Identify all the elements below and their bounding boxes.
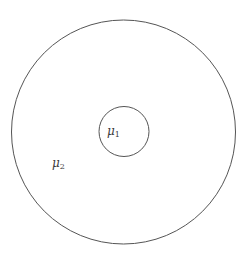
inner-region-label: μ1 xyxy=(107,125,120,139)
outer-label-subscript: 2 xyxy=(60,162,65,171)
inner-label-symbol: μ xyxy=(107,124,115,138)
inner-label-subscript: 1 xyxy=(115,130,120,139)
diagram-canvas xyxy=(0,0,247,256)
outer-region-label: μ2 xyxy=(52,157,65,171)
outer-label-symbol: μ xyxy=(52,156,60,170)
outer-circle xyxy=(12,20,236,244)
